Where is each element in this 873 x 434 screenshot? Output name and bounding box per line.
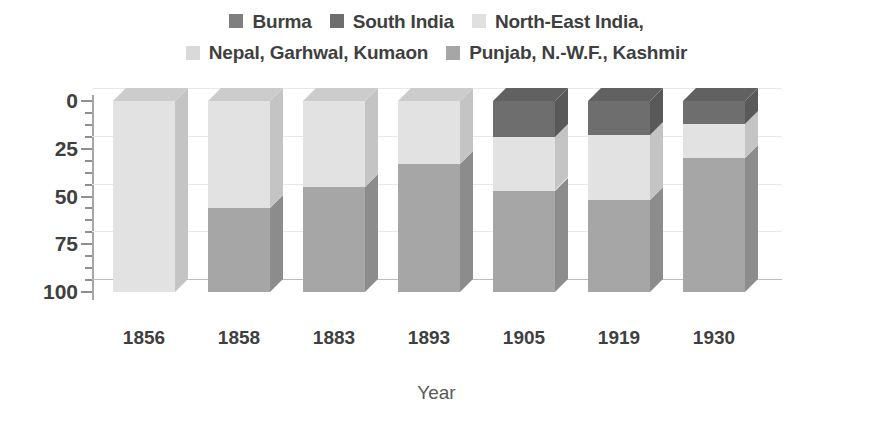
x-axis-tick-label: 1883 [291, 327, 377, 349]
y-axis-minor-tick [85, 124, 92, 126]
y-axis-minor-tick [85, 112, 92, 114]
bar-segment[interactable] [493, 101, 555, 137]
bar-segment[interactable] [683, 101, 745, 124]
x-axis-tick-label: 1893 [386, 327, 472, 349]
bar-segment-front [683, 158, 745, 292]
bar-segment-top [303, 88, 378, 101]
bar-segment[interactable] [113, 101, 175, 292]
bar-segment-front [588, 200, 650, 292]
bar-segment-front [398, 164, 460, 292]
y-axis-line [92, 95, 94, 300]
y-axis-minor-tick [85, 255, 92, 257]
bar-segment[interactable] [208, 101, 270, 208]
bar-segment-front [683, 101, 745, 124]
y-axis-minor-tick [85, 219, 92, 221]
y-axis-major-tick [81, 196, 92, 198]
y-axis-minor-tick [85, 207, 92, 209]
bar-segment[interactable] [208, 208, 270, 292]
bar-segment-side [175, 88, 188, 292]
bar-segment-side [365, 174, 378, 292]
bar-segment[interactable] [588, 200, 650, 292]
bar-segment-top [683, 88, 758, 101]
bar-column[interactable] [493, 88, 568, 292]
bar-segment[interactable] [683, 124, 745, 158]
bar-segment-front [493, 191, 555, 292]
bar-segment-front [398, 101, 460, 164]
y-axis-tick-label: 100 [18, 281, 78, 302]
x-axis-tick-label: 1905 [481, 327, 567, 349]
y-axis-tick-label: 75 [18, 233, 78, 254]
y-axis-major-tick [81, 291, 92, 293]
x-axis-tick-label: 1919 [576, 327, 662, 349]
bar-segment[interactable] [398, 164, 460, 292]
bar-segment[interactable] [588, 101, 650, 135]
bar-segment-top [208, 88, 283, 101]
bar-segment-front [303, 187, 365, 292]
bar-segment-top [398, 88, 473, 101]
bar-segment-side [650, 187, 663, 292]
bar-segment-side [460, 88, 473, 164]
y-axis-tick-label: 50 [18, 186, 78, 207]
bar-segment-front [113, 101, 175, 292]
bar-segment[interactable] [493, 137, 555, 190]
bar-segment-side [650, 122, 663, 200]
bar-segment-front [683, 124, 745, 158]
bar-segment-front [588, 101, 650, 135]
x-axis-tick-label: 1930 [671, 327, 757, 349]
y-axis-tick-label: 0 [18, 90, 78, 111]
y-axis-minor-tick [85, 136, 92, 138]
bar-segment[interactable] [588, 135, 650, 200]
x-axis-title: Year [0, 382, 873, 404]
y-axis-minor-tick [85, 279, 92, 281]
y-axis-minor-tick [85, 184, 92, 186]
bar-segment[interactable] [398, 101, 460, 164]
bar-segment-side [365, 88, 378, 187]
bar-segment-front [208, 208, 270, 292]
bar-segment-side [555, 178, 568, 292]
bar-segment-top [113, 88, 188, 101]
y-axis-major-tick [81, 148, 92, 150]
y-axis-major-tick [81, 100, 92, 102]
y-axis-minor-tick [85, 267, 92, 269]
bar-segment-front [588, 135, 650, 200]
bar-column[interactable] [683, 88, 758, 292]
bar-segment[interactable] [303, 187, 365, 292]
stacked-bar-chart: BurmaSouth IndiaNorth-East India,Nepal, … [0, 0, 873, 434]
bar-segment-front [303, 101, 365, 187]
bar-segment-side [270, 195, 283, 292]
bar-column[interactable] [398, 88, 473, 292]
bar-segment[interactable] [493, 191, 555, 292]
bar-segment-front [493, 101, 555, 137]
bar-column[interactable] [588, 88, 663, 292]
bar-segment-side [745, 145, 758, 292]
bar-column[interactable] [303, 88, 378, 292]
bar-segment-top [493, 88, 568, 101]
bar-segment-side [460, 151, 473, 292]
y-axis-tick-label: 25 [18, 138, 78, 159]
bar-segment[interactable] [683, 158, 745, 292]
bar-segment-side [270, 88, 283, 208]
x-axis-tick-label: 1858 [196, 327, 282, 349]
bar-segment-front [493, 137, 555, 190]
y-axis-minor-tick [85, 231, 92, 233]
bar-segment-front [208, 101, 270, 208]
bar-column[interactable] [113, 88, 188, 292]
bar-segment[interactable] [303, 101, 365, 187]
x-axis-tick-label: 1856 [101, 327, 187, 349]
bar-column[interactable] [208, 88, 283, 292]
bar-segment-top [588, 88, 663, 101]
plot-area: 10075502501856185818831893190519191930 [0, 0, 873, 434]
y-axis-major-tick [81, 243, 92, 245]
y-axis-minor-tick [85, 172, 92, 174]
y-axis-minor-tick [85, 160, 92, 162]
